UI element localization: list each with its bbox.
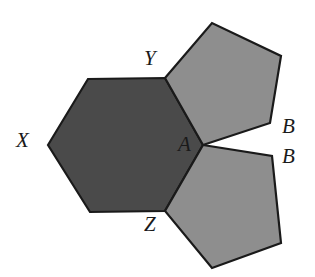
vertex-label-a: A bbox=[178, 134, 191, 155]
vertex-label-y: Y bbox=[144, 48, 156, 69]
angle-label-b-lower: B bbox=[282, 146, 295, 167]
figure-canvas bbox=[0, 0, 315, 277]
geometry-figure: X Y Z A B B bbox=[0, 0, 315, 277]
vertex-label-z: Z bbox=[144, 214, 156, 235]
vertex-label-x: X bbox=[16, 130, 29, 151]
angle-label-b-upper: B bbox=[282, 116, 295, 137]
